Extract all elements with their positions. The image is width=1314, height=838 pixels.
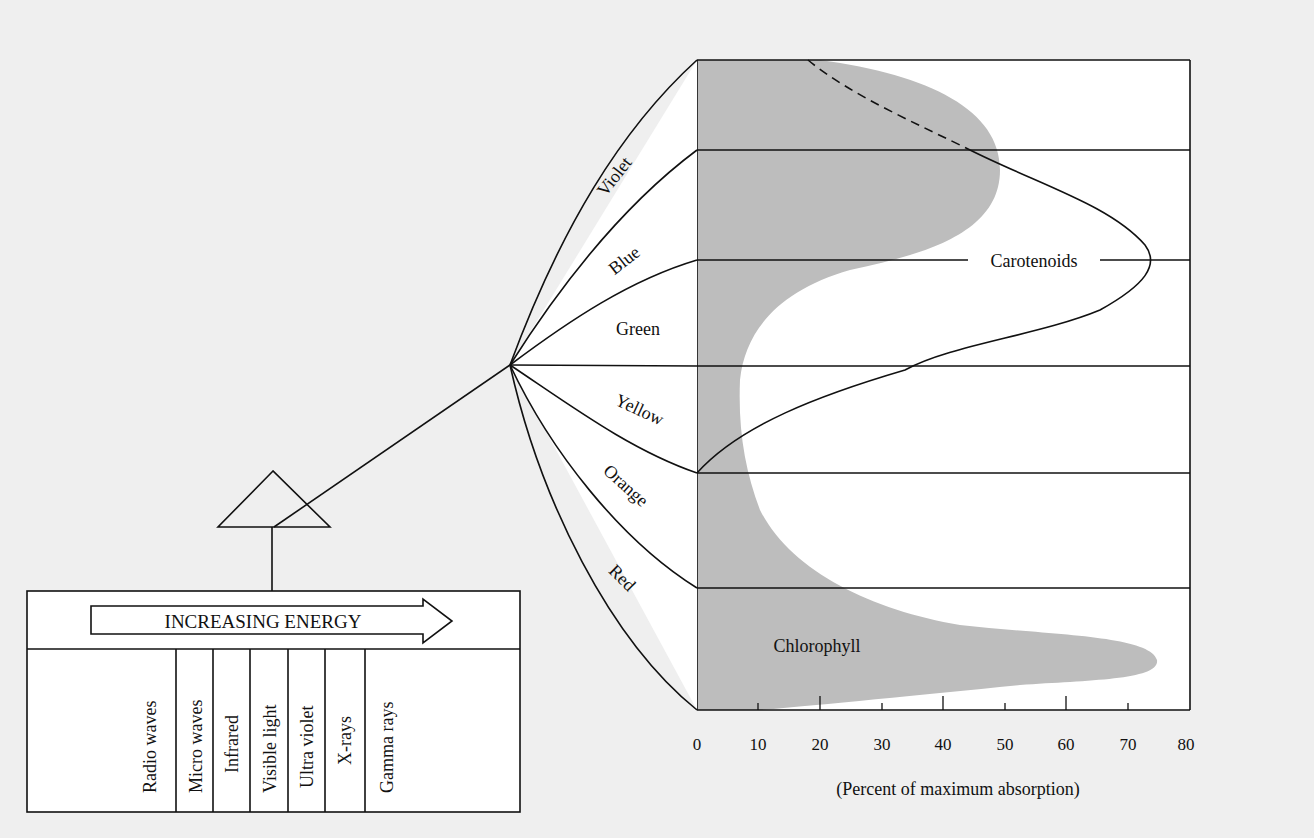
prism-icon — [218, 471, 330, 527]
x-tick-label: 20 — [812, 735, 829, 754]
band-gamma-rays: Gamma rays — [377, 702, 397, 793]
x-tick-label: 60 — [1058, 735, 1075, 754]
band-x-rays: X-rays — [335, 716, 355, 765]
x-tick-label: 80 — [1178, 735, 1195, 754]
electromagnetic-spectrum-box: INCREASING ENERGY Radio waves Micro wave… — [27, 591, 520, 812]
chlorophyll-label: Chlorophyll — [773, 636, 860, 656]
photosynthesis-absorption-diagram: Carotenoids Chlorophyll 0 10 20 30 40 50… — [0, 0, 1314, 838]
band-ultra-violet: Ultra violet — [297, 706, 317, 788]
x-tick-label: 50 — [997, 735, 1014, 754]
carotenoids-label: Carotenoids — [991, 251, 1078, 271]
x-tick-label: 40 — [935, 735, 952, 754]
x-tick-label: 10 — [750, 735, 767, 754]
band-label-green: Green — [616, 319, 660, 339]
band-radio-waves: Radio waves — [140, 701, 160, 793]
increasing-energy-label: INCREASING ENERGY — [165, 611, 362, 632]
x-axis-title: (Percent of maximum absorption) — [836, 779, 1079, 800]
band-micro-waves: Micro waves — [186, 700, 206, 793]
x-axis-tick-labels: 0 10 20 30 40 50 60 70 80 — [693, 735, 1195, 754]
x-tick-label: 70 — [1120, 735, 1137, 754]
prism-group — [218, 365, 510, 591]
visible-spectrum-fan: Violet Blue Green Yellow Orange Red — [510, 60, 697, 710]
band-visible-light: Visible light — [260, 705, 280, 793]
light-ray — [274, 365, 510, 527]
absorption-plot: Carotenoids Chlorophyll — [697, 60, 1190, 710]
x-tick-label: 30 — [874, 735, 891, 754]
x-tick-label: 0 — [693, 735, 702, 754]
band-infrared: Infrared — [222, 715, 242, 773]
